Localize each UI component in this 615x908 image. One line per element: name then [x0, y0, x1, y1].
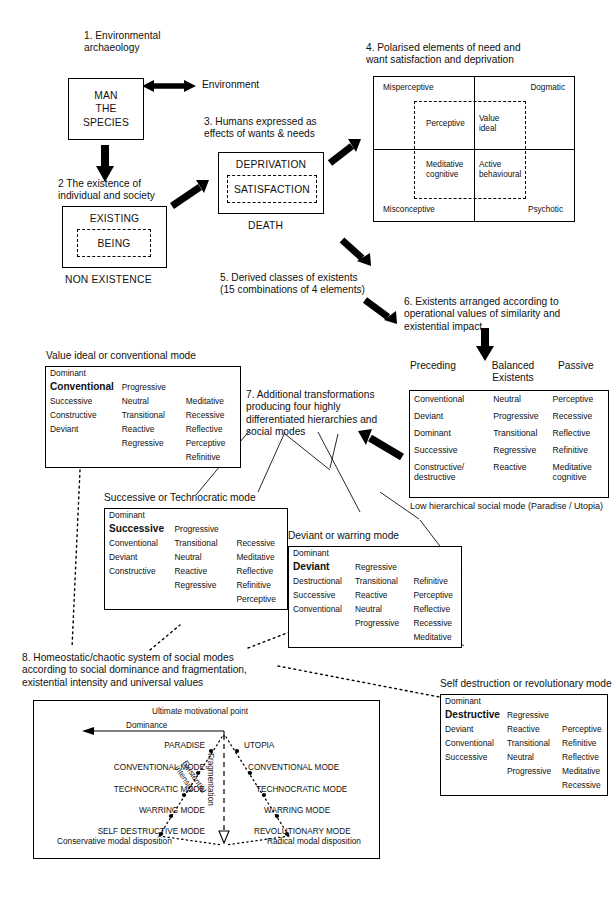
mode-cell	[503, 779, 558, 793]
mode-cell: Recessive	[409, 617, 461, 631]
mode-cell: Refinitive	[558, 737, 607, 751]
mode-cell: Reactive	[118, 423, 182, 437]
derived-to-existents-arrow	[365, 300, 397, 324]
existents-cell: Transitional	[489, 425, 548, 442]
fragmentation-text: Fragmentation	[206, 753, 215, 806]
mode-cell: Meditative	[182, 395, 240, 409]
mode-cell	[232, 509, 287, 523]
mode-cell	[289, 617, 351, 631]
existents-cell: Dominant	[410, 425, 489, 442]
table-row: SuccessiveProgressive	[105, 523, 287, 537]
mode-cell: Successive	[46, 395, 118, 409]
deprivation-label: DEPRIVATION	[219, 157, 323, 171]
right-mode-conventional: CONVENTIONAL MODE	[244, 763, 379, 785]
mode-box-deviant: Dominant DeviantRegressive Destructional…	[288, 546, 462, 648]
mode-cell: Refinitive	[182, 451, 240, 465]
mode-cell-head: Deviant	[289, 561, 351, 575]
mode-box-value-ideal: Dominant ConventionalProgressive Success…	[45, 366, 241, 468]
mode-body-value-ideal: Dominant ConventionalProgressive Success…	[46, 367, 240, 465]
existents-table: Conventional Neutral Perceptive Deviant …	[409, 390, 609, 498]
table-row: DeviantReactiveReflective	[46, 423, 240, 437]
table-row: ConventionalTransitionalRefinitive	[441, 737, 607, 751]
existents-header-preceding: Preceding	[410, 360, 456, 372]
mode-body-deviant: Dominant DeviantRegressive Destructional…	[289, 547, 461, 645]
existents-cell: Recessive	[549, 408, 608, 425]
mode-cell: Meditative	[558, 765, 607, 779]
right-mode-utopia: UTOPIA	[244, 741, 379, 763]
existents-header-passive: Passive	[558, 360, 594, 372]
mode-title-value-ideal: Value ideal or conventional mode	[46, 350, 196, 362]
mode-cell-head: Destructive	[441, 709, 503, 723]
polarised-quadrant: Misperceptive Dogmatic Misconceptive Psy…	[373, 76, 575, 222]
mode-cell	[118, 367, 182, 381]
table-row: RegressivePerceptive	[46, 437, 240, 451]
table-row: DeviantReactivePerceptive	[441, 723, 607, 737]
table-row: Conventional Neutral Perceptive	[410, 391, 608, 408]
mode-cell: Neutral	[503, 751, 558, 765]
environment-label: Environment	[202, 79, 259, 91]
quadrant-inner-active-behavioural: Active behavioural	[479, 160, 521, 179]
mode-cell: Reflective	[558, 751, 607, 765]
existents-cell: Constructive/ destructive	[410, 458, 489, 485]
mode-cell	[105, 593, 171, 607]
left-mode-technocratic: TECHNOCRATIC MODE	[40, 785, 205, 806]
mode-cell: Transitional	[171, 537, 233, 551]
mode-cell: Meditative	[409, 631, 461, 645]
existents-cell: Progressive	[489, 408, 548, 425]
mode-cell: Perceptive	[558, 723, 607, 737]
mode-cell: Constructive	[105, 565, 171, 579]
mode-body-successive: Dominant SuccessiveProgressive Conventio…	[105, 509, 287, 607]
table-row: Meditative	[289, 631, 461, 645]
mode-cell: Reactive	[351, 589, 409, 603]
mode-cell: Reactive	[503, 723, 558, 737]
death-caption: DEATH	[248, 220, 283, 232]
deprivation-to-quadrant-arrow	[330, 139, 361, 163]
right-mode-warring: WARRING MODE	[244, 806, 379, 827]
mode-cell: Destructional	[289, 575, 351, 589]
quadrant-inner-meditative-cognitive: Meditative cognitive	[426, 160, 463, 179]
section-1-label: 1. Environmental archaeology	[84, 30, 264, 55]
existents-cell: Conventional	[410, 391, 489, 408]
mode-cell: Recessive	[232, 537, 287, 551]
mode-cell	[558, 709, 607, 723]
mode-cell	[351, 631, 409, 645]
mode-cell: Progressive	[171, 523, 233, 537]
mode-cell: Conventional	[105, 537, 171, 551]
non-existence-caption: NON EXISTENCE	[65, 274, 152, 286]
section-6-label: 6. Existents arranged according to opera…	[404, 296, 614, 333]
right-mode-list: UTOPIA CONVENTIONAL MODE TECHNOCRATIC MO…	[244, 741, 379, 837]
mode-cell: Regressive	[171, 579, 233, 593]
mode-cell: Deviant	[441, 723, 503, 737]
mode-cell: Progressive	[118, 381, 182, 395]
section-4-label: 4. Polarised elements of need and want s…	[366, 42, 586, 67]
mode-cell: Refinitive	[232, 579, 287, 593]
mode-cell	[289, 631, 351, 645]
mode-cell: Neutral	[171, 551, 233, 565]
existents-cell: Reflective	[549, 425, 608, 442]
mode-title-deviant: Deviant or warring mode	[288, 530, 399, 542]
existents-cell: Meditative cognitive	[549, 458, 608, 485]
table-row: Dominant	[105, 509, 287, 523]
mode-cell: Conventional	[289, 603, 351, 617]
section-5-label: 5. Derived classes of existents (15 comb…	[220, 272, 450, 297]
mode-grid-successive: Dominant SuccessiveProgressive Conventio…	[105, 509, 287, 607]
mode-cell-top: Dominant	[46, 367, 118, 381]
existents-cell: Successive	[410, 441, 489, 458]
section-7-label: 7. Additional transformations producing …	[246, 389, 406, 439]
mode-cell	[46, 451, 118, 465]
mode-cell: Reflective	[409, 603, 461, 617]
table-row: Dominant	[441, 695, 607, 709]
fragmentation-label: Fragmentation	[204, 753, 222, 806]
table-row: DestructionalTransitionalRefinitive	[289, 575, 461, 589]
mode-cell: Successive	[441, 751, 503, 765]
satisfaction-inner-box: SATISFACTION	[227, 175, 317, 203]
left-mode-list: PARADISE CONVENTIONAL MODE TECHNOCRATIC …	[40, 741, 205, 837]
mode-cell-head: Conventional	[46, 381, 118, 395]
mode-cell	[171, 509, 233, 523]
table-row: ConventionalNeutralReflective	[289, 603, 461, 617]
mode-cell: Reflective	[232, 565, 287, 579]
table-row: DeviantNeutralMeditative	[105, 551, 287, 565]
mode-grid-destructive: Dominant DestructiveRegressive DeviantRe…	[441, 695, 607, 793]
mode-cell: Perceptive	[182, 437, 240, 451]
mode-cell	[182, 381, 240, 395]
